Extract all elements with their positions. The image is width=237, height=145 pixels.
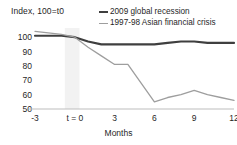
chart-container: Index, 100=t0 2009 global recession 1997…	[0, 0, 237, 145]
event-shaded-band	[65, 28, 80, 109]
x-axis-title: Months	[0, 128, 237, 138]
plot-area	[0, 0, 237, 145]
